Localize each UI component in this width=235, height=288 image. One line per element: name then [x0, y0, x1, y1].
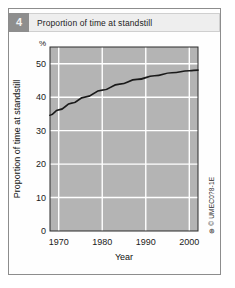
figure-header: 4 Proportion of time at standstill [9, 13, 220, 32]
y-axis-tick-labels: 01020304050 [36, 59, 46, 236]
line-chart: 01020304050 1970198019902000 % Proportio… [9, 38, 220, 271]
figure-number-badge: 4 [9, 13, 29, 32]
x-tick-label: 1980 [92, 237, 112, 247]
x-tick-label: 2000 [179, 237, 199, 247]
y-tick-label: 0 [41, 226, 46, 236]
figure-title-panel: Proportion of time at standstill [29, 13, 220, 32]
y-axis-unit-label: % [39, 39, 46, 48]
x-axis-tick-labels: 1970198019902000 [49, 237, 200, 247]
y-tick-label: 40 [36, 92, 46, 102]
x-tick-label: 1970 [49, 237, 69, 247]
page-title: Proportion of time at standstill [37, 18, 152, 28]
chart-container: 01020304050 1970198019902000 % Proportio… [9, 38, 220, 271]
y-tick-label: 10 [36, 193, 46, 203]
plot-background [50, 47, 198, 231]
figure-root: 4 Proportion of time at standstill 01020… [0, 0, 235, 288]
x-tick-label: 1990 [136, 237, 156, 247]
y-tick-label: 20 [36, 159, 46, 169]
y-tick-label: 30 [36, 126, 46, 136]
y-tick-label: 50 [36, 59, 46, 69]
x-axis-title: Year [115, 252, 133, 262]
source-credit-label: ⊕ © UMEC0?8-1E [208, 176, 215, 234]
y-axis-title: Proportion of time at standstill [12, 80, 22, 199]
